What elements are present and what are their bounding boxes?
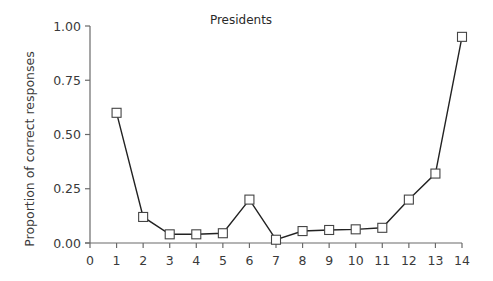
y-tick-label: 1.00 — [53, 19, 81, 34]
x-tick-label: 7 — [272, 253, 280, 268]
data-point-marker — [245, 195, 254, 204]
x-tick-label: 2 — [139, 253, 147, 268]
y-tick-label: 0.00 — [53, 236, 81, 251]
x-tick-label: 6 — [245, 253, 253, 268]
x-tick-label: 13 — [427, 253, 443, 268]
y-axis: 0.000.250.500.751.00 — [53, 19, 90, 251]
y-tick-label: 0.50 — [53, 127, 81, 142]
data-point-marker — [192, 230, 201, 239]
chart-title: Presidents — [210, 13, 272, 27]
data-point-marker — [431, 169, 440, 178]
data-point-marker — [165, 230, 174, 239]
data-point-marker — [325, 225, 334, 234]
data-series — [112, 32, 466, 244]
x-tick-label: 1 — [113, 253, 121, 268]
y-tick-label: 0.75 — [53, 73, 81, 88]
y-axis-label: Proportion of correct responses — [22, 51, 37, 247]
x-tick-label: 4 — [192, 253, 200, 268]
data-point-marker — [139, 212, 148, 221]
data-point-marker — [378, 223, 387, 232]
data-point-marker — [272, 235, 281, 244]
data-point-marker — [112, 108, 121, 117]
x-axis: 01234567891011121314 — [85, 243, 470, 268]
x-tick-label: 9 — [325, 253, 333, 268]
data-point-marker — [298, 227, 307, 236]
x-tick-label: 10 — [348, 253, 364, 268]
x-tick-label: 3 — [166, 253, 174, 268]
x-tick-label: 8 — [299, 253, 307, 268]
data-point-marker — [218, 229, 227, 238]
x-tick-label: 11 — [374, 253, 390, 268]
data-point-marker — [351, 225, 360, 234]
series-line — [117, 37, 462, 240]
y-tick-label: 0.25 — [53, 181, 81, 196]
x-tick-label: 14 — [454, 253, 470, 268]
data-point-marker — [458, 32, 467, 41]
x-tick-label: 0 — [86, 253, 94, 268]
line-chart: Presidents Proportion of correct respons… — [0, 0, 493, 281]
x-tick-label: 12 — [401, 253, 417, 268]
data-point-marker — [404, 195, 413, 204]
x-tick-label: 5 — [219, 253, 227, 268]
